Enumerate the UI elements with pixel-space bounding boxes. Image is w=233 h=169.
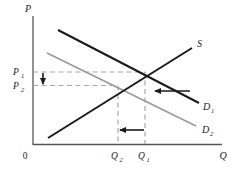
quantity-tick-q1: Q 1 [138,151,150,163]
x-axis-label: Q [219,150,227,161]
price-tick-p2: P 2 [12,81,25,93]
demand-curve-d1-label: D 1 [202,101,214,114]
annotation-arrows-group [43,73,190,130]
curves-group [47,30,199,138]
supply-demand-figure: P Q 0 P 1 P 2 Q 2 Q 1 S D 1 D 2 [0,0,233,169]
demand-d1-subscript: 1 [211,107,214,114]
price-tick-p1-letter: P [12,67,19,77]
price-tick-p1: P 1 [12,67,24,79]
quantity-tick-q2-subscript: 2 [120,156,124,163]
demand-d1-letter: D [202,101,211,112]
price-tick-p2-letter: P [12,81,19,91]
price-tick-p2-subscript: 2 [21,86,25,93]
demand-d2-subscript: 2 [210,130,214,137]
price-tick-p1-subscript: 1 [21,72,24,79]
demand-curve-d2-label: D 2 [201,124,214,137]
guide-lines-group [33,72,145,144]
origin-label: 0 [23,151,28,161]
y-axis-label: P [24,3,31,14]
quantity-tick-q2-letter: Q [111,151,118,161]
quantity-tick-q2: Q 2 [111,151,124,163]
quantity-tick-q1-letter: Q [138,151,145,161]
supply-curve-label: S [197,38,202,49]
quantity-tick-q1-subscript: 1 [147,156,150,163]
demand-d2-letter: D [201,124,210,135]
